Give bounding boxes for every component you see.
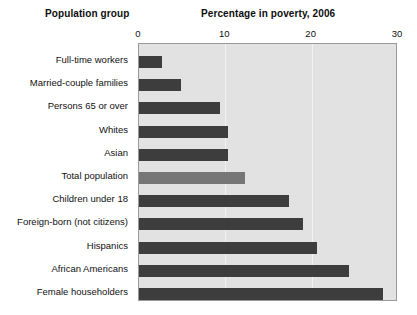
category-label: Total population [61,170,128,182]
bar [139,56,162,68]
x-axis: 0102030 [0,28,417,42]
category-label: Whites [99,124,128,136]
category-label: Married-couple families [30,77,128,89]
plot-area [138,43,397,301]
category-label: Full-time workers [56,54,128,66]
bar [139,288,383,300]
population-group-heading: Population group [45,8,129,19]
category-label: Foreign-born (not citizens) [17,216,128,228]
chart-title: Percentage in poverty, 2006 [201,8,335,19]
bars-layer [139,44,396,300]
x-tick-label: 10 [219,28,230,39]
category-label: Female householders [37,286,128,298]
category-axis-labels: Full-time workersMarried-couple families… [0,43,133,301]
bar [139,102,220,114]
bar [139,242,317,254]
category-label: African Americans [51,263,128,275]
bar [139,172,245,184]
bar [139,218,303,230]
x-tick-label: 0 [135,28,140,39]
bar [139,195,289,207]
x-tick-label: 30 [392,28,403,39]
category-label: Hispanics [87,240,128,252]
category-label: Persons 65 or over [48,100,128,112]
poverty-bar-chart: Population group Percentage in poverty, … [0,0,417,315]
x-tick-label: 20 [305,28,316,39]
category-label: Children under 18 [52,193,128,205]
bar [139,149,228,161]
bar [139,79,181,91]
bar [139,265,349,277]
category-label: Asian [104,147,128,159]
bar [139,126,228,138]
